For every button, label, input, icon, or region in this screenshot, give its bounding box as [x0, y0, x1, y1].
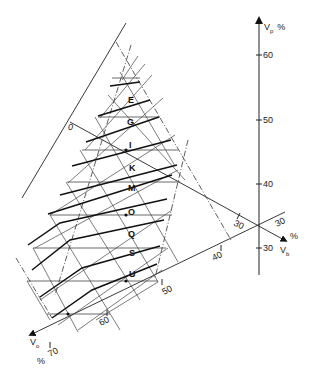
ternary-nomogram: Vp% 60 50 40 30 40 50 60 70 Vo % 30 30 %…: [0, 0, 312, 375]
row-label-m: M: [128, 183, 136, 193]
row-label-s: S: [129, 248, 135, 258]
row-label-o: O: [128, 207, 135, 217]
vb-tick-30-right: 30: [273, 215, 287, 229]
vo-axis-unit: %: [37, 356, 45, 366]
zero-line: 0: [22, 23, 126, 198]
row-label-k: K: [129, 163, 136, 173]
vo-tick-40: 40: [210, 249, 224, 263]
row-label-q: Q: [128, 229, 135, 239]
vp-axis-label: Vp%: [264, 22, 285, 34]
vb-axis-unit: %: [290, 231, 298, 241]
vp-tick-30: 30: [263, 243, 273, 253]
vo-tick-60: 60: [97, 314, 111, 328]
vp-tick-40: 40: [263, 179, 273, 189]
svg-text:0: 0: [68, 122, 73, 132]
vb-axis: 30 30 % Vb: [70, 122, 298, 257]
vo-tick-70: 70: [46, 345, 60, 359]
vp-axis: Vp% 60 50 40 30: [256, 18, 285, 275]
vo-axis-label: Vo: [30, 337, 40, 349]
vp-tick-60: 60: [263, 50, 273, 60]
row-label-e: E: [128, 95, 134, 105]
vo-tick-50: 50: [160, 283, 174, 297]
row-labels: E G I K M O Q S U: [127, 95, 136, 279]
row-label-i: I: [129, 140, 132, 150]
row-label-u: U: [129, 269, 136, 279]
vo-axis: 40 50 60 70 Vo %: [30, 212, 285, 366]
vp-tick-50: 50: [263, 115, 273, 125]
vb-axis-label: Vb: [280, 245, 290, 257]
vb-tick-30: 30: [232, 218, 246, 232]
row-label-g: G: [127, 117, 134, 127]
